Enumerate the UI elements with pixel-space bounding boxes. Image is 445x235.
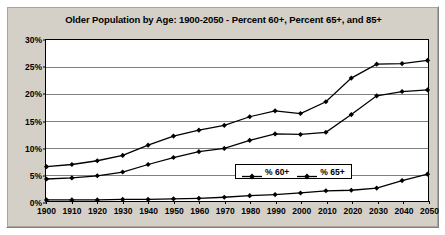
- x-axis-tick-mark: [301, 201, 302, 204]
- data-point-marker: [146, 143, 151, 148]
- data-point-marker: [298, 132, 303, 137]
- data-point-marker: [273, 108, 278, 113]
- data-point-marker: [222, 195, 227, 200]
- x-axis-tick-mark: [378, 201, 379, 204]
- y-axis-tick-label: 15%: [25, 117, 42, 127]
- legend-marker-icon: [242, 167, 262, 176]
- legend-marker-icon: [297, 167, 317, 176]
- x-axis-tick-mark: [174, 201, 175, 204]
- legend-entry: % 65+: [297, 167, 344, 177]
- data-point-marker: [69, 162, 74, 167]
- x-axis-tick-label: 2020: [343, 206, 362, 216]
- data-point-marker: [273, 192, 278, 197]
- y-axis-tick-label: 20%: [25, 89, 42, 99]
- data-point-marker: [120, 153, 125, 158]
- x-axis-tick-label: 2030: [369, 206, 388, 216]
- data-point-marker: [222, 123, 227, 128]
- data-point-marker: [171, 133, 176, 138]
- data-point-marker: [146, 162, 151, 167]
- chart-legend: % 60+% 65+: [235, 164, 352, 179]
- data-point-marker: [323, 188, 328, 193]
- data-point-marker: [222, 146, 227, 151]
- data-point-marker: [171, 155, 176, 160]
- x-axis-tick-label: 1970: [216, 206, 235, 216]
- series-1: [44, 58, 430, 169]
- chart-title: Older Population by Age: 1900-2050 - Per…: [7, 14, 440, 25]
- x-axis-tick-mark: [352, 201, 353, 204]
- data-point-marker: [247, 114, 252, 119]
- chart-panel: Older Population by Age: 1900-2050 - Per…: [6, 6, 439, 228]
- legend-label: % 60+: [265, 167, 289, 177]
- x-axis-tick-label: 1990: [267, 206, 286, 216]
- data-point-marker: [146, 197, 151, 202]
- data-point-marker: [400, 61, 405, 66]
- y-axis-tick-label: 30%: [25, 35, 42, 45]
- data-point-marker: [374, 186, 379, 191]
- data-point-marker: [425, 172, 430, 177]
- data-point-marker: [95, 197, 100, 202]
- x-axis-tick-mark: [327, 201, 328, 204]
- data-point-marker: [298, 111, 303, 116]
- x-axis-tick-mark: [403, 201, 404, 204]
- x-axis-tick-label: 1940: [139, 206, 158, 216]
- data-point-marker: [95, 173, 100, 178]
- data-point-marker: [196, 196, 201, 201]
- data-point-marker: [374, 62, 379, 67]
- y-axis-tick-label: 25%: [25, 62, 42, 72]
- legend-label: % 65+: [320, 167, 344, 177]
- data-point-marker: [425, 87, 430, 92]
- x-axis-tick-label: 2040: [394, 206, 413, 216]
- x-axis-tick-label: 1980: [241, 206, 260, 216]
- data-point-marker: [349, 188, 354, 193]
- x-axis-tick-label: 1930: [114, 206, 133, 216]
- series-line: [46, 60, 427, 166]
- data-point-marker: [247, 138, 252, 143]
- data-point-marker: [95, 158, 100, 163]
- data-point-marker: [196, 128, 201, 133]
- data-point-marker: [120, 169, 125, 174]
- x-axis-tick-mark: [429, 201, 430, 204]
- x-axis-tick-mark: [225, 201, 226, 204]
- x-axis-tick-label: 1900: [37, 206, 56, 216]
- data-point-marker: [400, 89, 405, 94]
- x-axis-tick-label: 2000: [292, 206, 311, 216]
- y-axis-tick-label: 10%: [25, 144, 42, 154]
- x-axis-tick-mark: [250, 201, 251, 204]
- data-point-marker: [44, 164, 49, 169]
- data-point-marker: [44, 176, 49, 181]
- x-axis-tick-label: 1910: [63, 206, 82, 216]
- data-point-marker: [425, 58, 430, 63]
- x-axis-tick-mark: [276, 201, 277, 204]
- legend-entry: % 60+: [242, 167, 289, 177]
- y-axis-tick-label: 5%: [30, 171, 42, 181]
- data-point-marker: [196, 149, 201, 154]
- x-axis-tick-label: 2010: [318, 206, 337, 216]
- data-point-marker: [171, 196, 176, 201]
- data-point-marker: [273, 131, 278, 136]
- x-axis-tick-label: 1920: [88, 206, 107, 216]
- data-point-marker: [247, 193, 252, 198]
- x-axis-tick-mark: [199, 201, 200, 204]
- data-point-marker: [120, 197, 125, 202]
- x-axis-tick-label: 1950: [165, 206, 184, 216]
- data-point-marker: [298, 190, 303, 195]
- chart-root: Older Population by Age: 1900-2050 - Per…: [0, 0, 445, 235]
- x-axis-tick-label: 1960: [190, 206, 209, 216]
- data-point-marker: [69, 197, 74, 202]
- data-point-marker: [400, 178, 405, 183]
- data-point-marker: [69, 175, 74, 180]
- x-axis-tick-label: 2050: [420, 206, 439, 216]
